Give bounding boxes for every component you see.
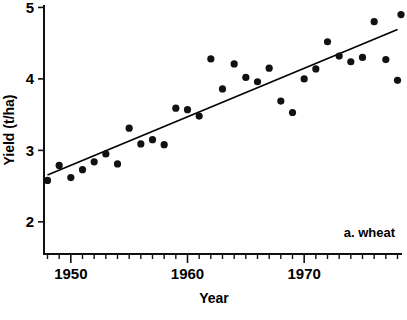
data-point xyxy=(184,106,191,113)
data-point xyxy=(91,158,98,165)
data-point xyxy=(359,54,366,61)
plot-axes-lines xyxy=(44,6,401,254)
y-tick-label-5: 5 xyxy=(26,0,34,16)
data-point xyxy=(207,55,214,62)
data-point xyxy=(44,177,51,184)
x-axis-tick-labels: 195019601970 xyxy=(54,265,321,282)
axes-group xyxy=(44,6,401,254)
data-point xyxy=(324,38,331,45)
chart-canvas: 5432 195019601970 Year Yield (t/ha) a. w… xyxy=(0,0,407,320)
data-point xyxy=(102,150,109,157)
data-point xyxy=(277,97,284,104)
data-point xyxy=(312,65,319,72)
y-axis-title: Yield (t/ha) xyxy=(1,94,17,165)
data-point xyxy=(254,78,261,85)
x-tick-label-1970: 1970 xyxy=(287,265,320,282)
data-point xyxy=(266,65,273,72)
data-point xyxy=(126,125,133,132)
data-point xyxy=(242,74,249,81)
y-tick-label-4: 4 xyxy=(26,70,35,87)
x-tick-label-1950: 1950 xyxy=(54,265,87,282)
data-point xyxy=(219,85,226,92)
data-point xyxy=(336,52,343,59)
data-point xyxy=(394,77,401,84)
data-point xyxy=(397,11,404,18)
data-point xyxy=(137,140,144,147)
linear-regression-line xyxy=(48,30,398,175)
data-point xyxy=(79,166,86,173)
trend-line-group xyxy=(48,30,398,175)
data-point xyxy=(172,105,179,112)
y-tick-label-3: 3 xyxy=(26,142,34,159)
y-axis-tick-labels: 5432 xyxy=(26,0,35,230)
data-point xyxy=(231,60,238,67)
data-points-group xyxy=(44,11,405,184)
data-point xyxy=(196,112,203,119)
x-tick-label-1960: 1960 xyxy=(171,265,204,282)
data-point xyxy=(347,58,354,65)
data-point xyxy=(67,174,74,181)
series-annotation-label: a. wheat xyxy=(344,225,396,240)
data-point xyxy=(289,109,296,116)
data-point xyxy=(114,160,121,167)
data-point xyxy=(371,18,378,25)
data-point xyxy=(382,56,389,63)
data-point xyxy=(56,162,63,169)
data-point xyxy=(161,141,168,148)
y-tick-label-2: 2 xyxy=(26,213,34,230)
wheat-yield-scatter-chart: 5432 195019601970 Year Yield (t/ha) a. w… xyxy=(0,0,407,320)
data-point xyxy=(149,136,156,143)
data-point xyxy=(301,75,308,82)
x-axis-tick-marks xyxy=(48,254,398,263)
x-axis-title: Year xyxy=(199,290,229,306)
